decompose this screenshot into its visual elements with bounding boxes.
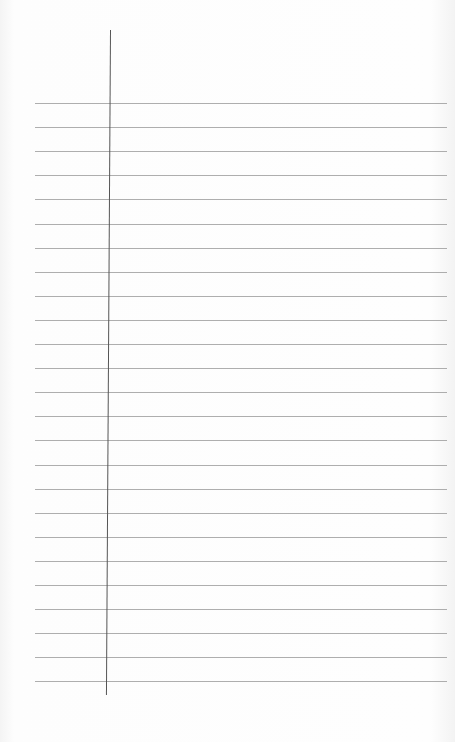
ruled-line <box>35 489 447 490</box>
ruled-line <box>35 320 447 321</box>
ruled-line <box>35 561 447 562</box>
ruled-line <box>35 103 447 104</box>
ruled-line <box>35 633 447 634</box>
ruled-line <box>35 440 447 441</box>
ruled-line <box>35 127 447 128</box>
ruled-line <box>35 465 447 466</box>
margin-line <box>106 30 111 695</box>
ruled-line <box>35 609 447 610</box>
ruled-line <box>35 296 447 297</box>
ruled-line <box>35 513 447 514</box>
ruled-line <box>35 585 447 586</box>
ruled-line <box>35 681 447 682</box>
ruled-line <box>35 272 447 273</box>
ruled-line <box>35 248 447 249</box>
ruled-line <box>35 368 447 369</box>
ruled-line <box>35 224 447 225</box>
ruled-line <box>35 416 447 417</box>
ruled-line <box>35 344 447 345</box>
ruled-line <box>35 657 447 658</box>
ruled-line <box>35 199 447 200</box>
ruled-line <box>35 175 447 176</box>
ruled-line <box>35 537 447 538</box>
ruled-line <box>35 151 447 152</box>
ruled-paper-sheet <box>0 0 455 742</box>
ruled-line <box>35 392 447 393</box>
